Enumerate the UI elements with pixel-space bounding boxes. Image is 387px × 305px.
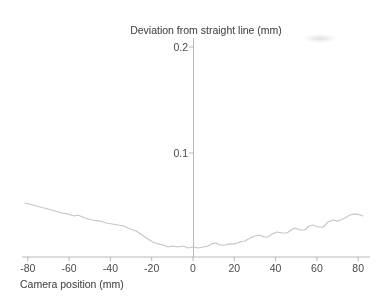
x-axis-title: Camera position (mm) <box>20 278 124 290</box>
x-axis-ticks: -80-60-40-20020406080 <box>20 257 364 274</box>
plot-area: -80-60-40-20020406080 0.10.2 <box>0 0 387 305</box>
scanned-chart-page: Deviation from straight line (mm) -80-60… <box>0 0 387 305</box>
x-tick-label: -20 <box>144 262 159 274</box>
y-tick-label: 0.2 <box>173 41 188 53</box>
x-tick-label: -60 <box>62 262 77 274</box>
y-axis-ticks: 0.10.2 <box>173 41 193 159</box>
x-tick-label: 60 <box>311 262 323 274</box>
y-tick-label: 0.1 <box>173 147 188 159</box>
x-tick-label: 20 <box>228 262 240 274</box>
x-tick-label: 40 <box>270 262 282 274</box>
x-tick-label: 80 <box>352 262 364 274</box>
x-tick-label: 0 <box>190 262 196 274</box>
x-tick-label: -40 <box>103 262 118 274</box>
x-tick-label: -80 <box>20 262 35 274</box>
